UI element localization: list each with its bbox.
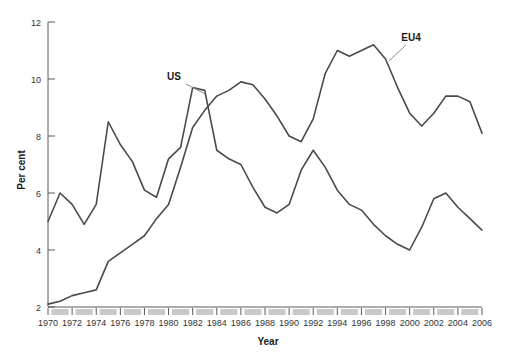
series-line-us (48, 88, 482, 250)
x-tick-label-1976: 1976 (110, 318, 130, 328)
x-tick-label-1978: 1978 (134, 318, 154, 328)
x-tick-label-1988: 1988 (255, 318, 275, 328)
x-tick-label-1984: 1984 (207, 318, 227, 328)
x-tick-box-1996 (365, 309, 382, 315)
y-tick-label-12: 12 (31, 18, 41, 28)
series-group (48, 45, 482, 304)
x-tick-box-1980 (172, 309, 189, 315)
axes-group (48, 22, 482, 307)
x-tick-box-1982 (196, 309, 213, 315)
series-label-us: US (167, 71, 181, 82)
y-tick-label-2: 2 (36, 303, 41, 313)
series-line-eu4 (48, 45, 482, 304)
y-tick-label-8: 8 (36, 132, 41, 142)
x-tick-marks (48, 308, 482, 315)
x-tick-label-1992: 1992 (303, 318, 323, 328)
line-chart: 24681012 1970197219741976197819801982198… (0, 0, 509, 357)
x-tick-label-1974: 1974 (86, 318, 106, 328)
x-tick-box-1984 (220, 309, 237, 315)
x-tick-label-2000: 2000 (400, 318, 420, 328)
series-label-eu4: EU4 (401, 32, 421, 43)
x-tick-box-1992 (317, 309, 334, 315)
x-tick-box-1978 (148, 309, 165, 315)
series-annotations: USEU4 (167, 32, 421, 94)
x-tick-box-1972 (76, 309, 93, 315)
x-tick-label-1982: 1982 (183, 318, 203, 328)
x-tick-label-2006: 2006 (472, 318, 492, 328)
x-tick-box-1976 (124, 309, 141, 315)
y-tick-label-10: 10 (31, 75, 41, 85)
y-tick-labels: 24681012 (31, 18, 41, 313)
x-tick-box-2000 (413, 309, 430, 315)
x-tick-box-1998 (389, 309, 406, 315)
x-tick-box-1988 (269, 309, 286, 315)
x-tick-box-1990 (293, 309, 310, 315)
x-tick-label-1994: 1994 (327, 318, 347, 328)
y-tick-label-6: 6 (36, 189, 41, 199)
x-tick-box-1994 (341, 309, 358, 315)
x-tick-box-2004 (461, 309, 478, 315)
x-tick-label-1998: 1998 (376, 318, 396, 328)
x-tick-label-1996: 1996 (351, 318, 371, 328)
chart-container: 24681012 1970197219741976197819801982198… (0, 0, 509, 357)
x-tick-box-1986 (244, 309, 261, 315)
x-tick-label-1986: 1986 (231, 318, 251, 328)
y-tick-label-4: 4 (36, 246, 41, 256)
x-tick-box-2002 (437, 309, 454, 315)
x-tick-box-1970 (52, 309, 69, 315)
x-tick-label-2004: 2004 (448, 318, 468, 328)
x-tick-box-1974 (100, 309, 117, 315)
x-tick-label-1980: 1980 (159, 318, 179, 328)
x-axis-title: Year (257, 336, 278, 347)
x-tick-label-1990: 1990 (279, 318, 299, 328)
x-tick-label-2002: 2002 (424, 318, 444, 328)
y-tick-marks (48, 22, 55, 307)
x-tick-label-1972: 1972 (62, 318, 82, 328)
x-tick-label-1970: 1970 (38, 318, 58, 328)
y-axis-title: Per cent (16, 150, 27, 190)
x-tick-labels: 1970197219741976197819801982198419861988… (38, 318, 492, 328)
leader-line-eu4 (389, 45, 406, 61)
